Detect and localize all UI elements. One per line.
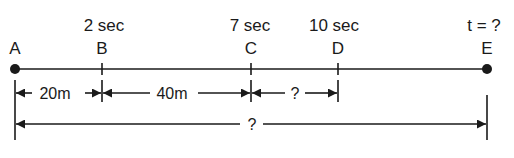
point-e-label: E [481, 39, 492, 58]
point-c-label: C [245, 39, 257, 58]
point-a-label: A [9, 39, 21, 58]
time-label-b: 2 sec [84, 16, 125, 35]
dimension-ab-label: 20m [39, 85, 70, 102]
time-label-d: 10 sec [309, 16, 360, 35]
point-a-dot [10, 64, 20, 74]
time-label-e: t = ? [467, 16, 501, 35]
dimension-cd-label: ? [291, 85, 300, 102]
dimension-bc-label: 40m [156, 85, 187, 102]
point-d-label: D [332, 39, 344, 58]
point-b-label: B [96, 39, 107, 58]
dimension-total-label: ? [248, 116, 257, 133]
motion-diagram: A B C D E 2 sec 7 sec 10 sec t = ? 20m 4… [0, 0, 514, 158]
time-label-c: 7 sec [230, 16, 271, 35]
point-e-dot [482, 64, 492, 74]
